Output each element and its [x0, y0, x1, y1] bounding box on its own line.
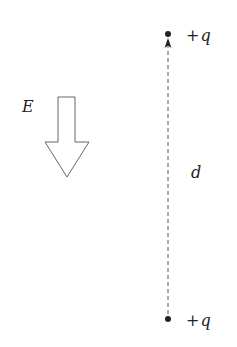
- diagram-canvas: E +q +q d: [0, 0, 237, 347]
- field-label: E: [21, 97, 34, 116]
- charge-symbol-bottom: q: [200, 311, 210, 330]
- charge-sign-top: +: [186, 26, 199, 45]
- charge-label-top: +q: [186, 26, 211, 45]
- charge-symbol-top: q: [200, 26, 210, 45]
- charge-sign-bottom: +: [186, 311, 199, 330]
- charge-dot-bottom: [165, 316, 171, 322]
- down-arrow-icon: [45, 97, 89, 177]
- charge-label-bottom: +q: [186, 311, 211, 330]
- electric-field-arrow: [45, 97, 89, 177]
- separation-label: d: [191, 163, 201, 182]
- charge-dot-top: [165, 31, 171, 37]
